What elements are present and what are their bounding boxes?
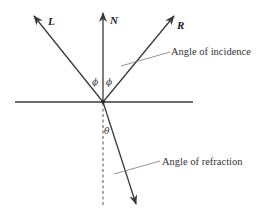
label-phi-right: ϕ: [106, 77, 112, 87]
annotation-angle-of-refraction: Angle of refraction: [162, 156, 243, 167]
reflection-refraction-diagram: L N R ϕ ϕ θ Angle of incidence Angle of …: [0, 0, 262, 220]
annotation-angle-of-incidence: Angle of incidence: [171, 46, 251, 57]
reflected-vector-R: [103, 16, 174, 102]
label-L: L: [47, 15, 55, 27]
incidence-leader-line: [121, 52, 170, 66]
label-R: R: [176, 19, 184, 31]
label-theta: θ: [104, 126, 110, 136]
refracted-vector: [103, 102, 136, 204]
label-N: N: [109, 14, 119, 26]
incidence-point: [101, 100, 105, 104]
refraction-leader-line: [114, 161, 160, 174]
light-vector-L: [34, 16, 103, 102]
label-phi-left: ϕ: [92, 77, 98, 87]
